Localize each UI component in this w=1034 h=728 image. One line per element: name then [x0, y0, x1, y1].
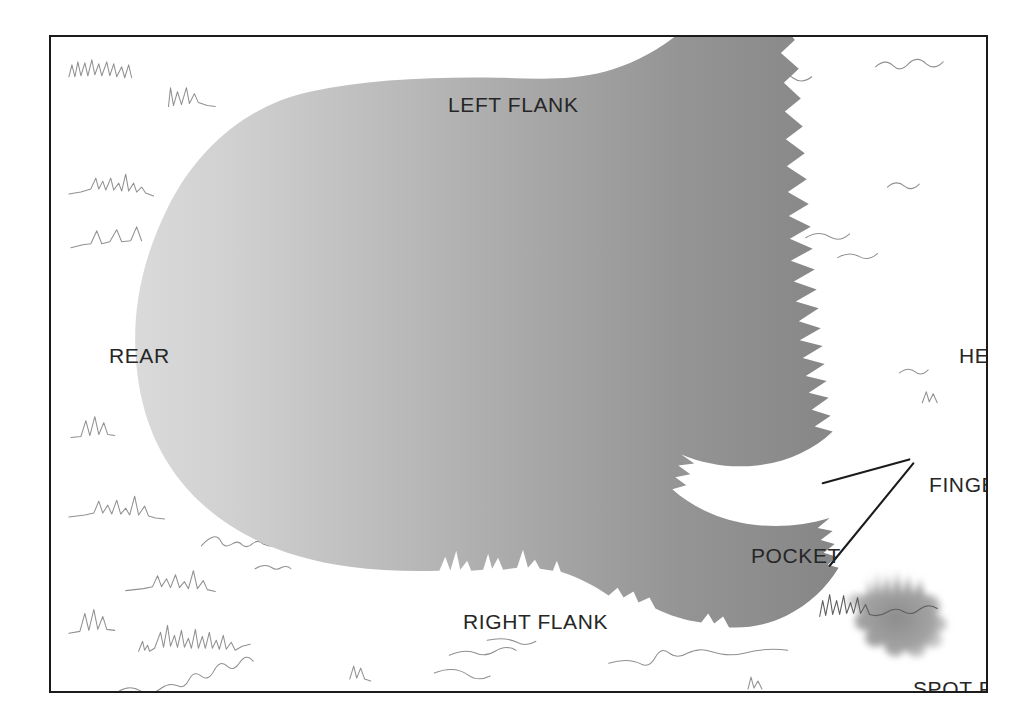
figure-frame: LEFT FLANK REAR HEAD FINGERS POCKET RIGH…: [49, 35, 988, 693]
label-rear: REAR: [109, 345, 170, 366]
label-right-flank: RIGHT FLANK: [463, 611, 608, 632]
label-pocket: POCKET: [751, 545, 841, 566]
leader-lines-layer: [51, 37, 986, 691]
label-spot-fire: SPOT FIRE: [913, 678, 988, 693]
diagram-canvas: LEFT FLANK REAR HEAD FINGERS POCKET RIGH…: [0, 0, 1034, 728]
label-head: HEAD: [959, 345, 988, 366]
label-left-flank: LEFT FLANK: [448, 94, 578, 115]
label-fingers: FINGERS: [929, 474, 988, 495]
leader-line-finger-upper: [823, 459, 910, 483]
